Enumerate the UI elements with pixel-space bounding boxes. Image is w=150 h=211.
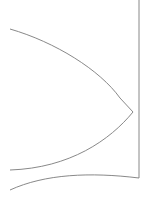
line-diagram	[0, 0, 150, 211]
upper-curve	[10, 29, 133, 112]
bottom-curve	[10, 175, 139, 190]
lower-curve	[10, 112, 133, 170]
